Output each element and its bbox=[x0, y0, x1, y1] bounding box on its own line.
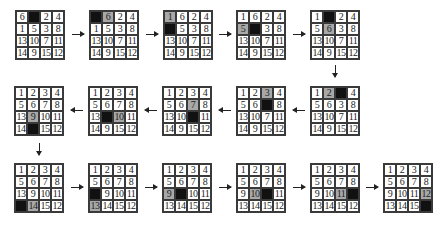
puzzle-state-15: 123456789101113141512 bbox=[310, 163, 360, 213]
moved-tile: 9 bbox=[163, 188, 175, 200]
moved-tile: 11 bbox=[335, 188, 347, 200]
puzzle-tile: 7 bbox=[261, 111, 273, 123]
puzzle-state-11: 123456781391011141512 bbox=[14, 163, 64, 213]
puzzle-tile: 2 bbox=[249, 87, 261, 99]
puzzle-tile: 8 bbox=[273, 23, 285, 35]
puzzle-tile: 3 bbox=[335, 164, 347, 176]
puzzle-tile: 1 bbox=[16, 23, 28, 35]
puzzle-tile: 4 bbox=[273, 164, 285, 176]
puzzle-tile: 14 bbox=[16, 47, 28, 59]
puzzle-tile: 3 bbox=[113, 164, 125, 176]
puzzle-tile: 4 bbox=[420, 164, 432, 176]
puzzle-tile: 11 bbox=[52, 35, 64, 47]
puzzle-tile: 9 bbox=[101, 188, 113, 200]
puzzle-tile: 2 bbox=[101, 164, 113, 176]
puzzle-tile: 14 bbox=[396, 200, 408, 212]
puzzle-tile: 14 bbox=[311, 123, 323, 135]
puzzle-tile: 5 bbox=[89, 176, 101, 188]
puzzle-tile: 8 bbox=[125, 176, 137, 188]
blank-tile bbox=[261, 99, 273, 111]
puzzle-tile: 5 bbox=[311, 99, 323, 111]
blank-tile bbox=[249, 23, 261, 35]
puzzle-tile: 6 bbox=[175, 176, 187, 188]
puzzle-tile: 2 bbox=[188, 11, 200, 23]
puzzle-tile: 7 bbox=[335, 111, 347, 123]
puzzle-tile: 9 bbox=[249, 123, 261, 135]
puzzle-tile: 9 bbox=[28, 47, 40, 59]
puzzle-tile: 6 bbox=[249, 11, 261, 23]
puzzle-state-3: 162453813107111491512 bbox=[163, 10, 213, 60]
moved-tile: 1 bbox=[164, 11, 176, 23]
puzzle-tile: 11 bbox=[347, 35, 359, 47]
puzzle-tile: 1 bbox=[237, 87, 249, 99]
moved-tile: 12 bbox=[420, 188, 432, 200]
puzzle-tile: 15 bbox=[39, 200, 51, 212]
puzzle-tile: 13 bbox=[311, 111, 323, 123]
moved-tile: 14 bbox=[27, 200, 39, 212]
puzzle-tile: 5 bbox=[311, 176, 323, 188]
puzzle-state-14: 123456789101113141512 bbox=[236, 163, 286, 213]
puzzle-tile: 7 bbox=[335, 176, 347, 188]
puzzle-tile: 5 bbox=[237, 176, 249, 188]
puzzle-tile: 12 bbox=[125, 200, 137, 212]
puzzle-tile: 12 bbox=[200, 47, 212, 59]
puzzle-state-6: 124563813107111491512 bbox=[310, 86, 360, 136]
puzzle-tile: 1 bbox=[237, 11, 249, 23]
puzzle-tile: 15 bbox=[113, 200, 125, 212]
arrow-left-icon bbox=[71, 110, 83, 111]
puzzle-state-12: 123456789101113141512 bbox=[88, 163, 138, 213]
puzzle-tile: 2 bbox=[40, 11, 52, 23]
puzzle-tile: 15 bbox=[335, 47, 347, 59]
puzzle-tile: 1 bbox=[311, 87, 323, 99]
puzzle-tile: 2 bbox=[249, 164, 261, 176]
puzzle-tile: 13 bbox=[15, 111, 27, 123]
puzzle-tile: 10 bbox=[113, 188, 125, 200]
puzzle-state-13: 123456789101113141512 bbox=[162, 163, 212, 213]
puzzle-tile: 1 bbox=[163, 87, 175, 99]
puzzle-tile: 2 bbox=[27, 164, 39, 176]
puzzle-tile: 15 bbox=[113, 123, 125, 135]
puzzle-tile: 4 bbox=[125, 87, 137, 99]
puzzle-tile: 12 bbox=[273, 47, 285, 59]
puzzle-tile: 2 bbox=[114, 11, 126, 23]
puzzle-tile: 8 bbox=[51, 99, 63, 111]
puzzle-tile: 11 bbox=[200, 35, 212, 47]
puzzle-tile: 9 bbox=[323, 47, 335, 59]
puzzle-tile: 5 bbox=[28, 23, 40, 35]
puzzle-tile: 2 bbox=[175, 164, 187, 176]
puzzle-state-4: 162453813107111491512 bbox=[236, 10, 286, 60]
puzzle-tile: 12 bbox=[347, 123, 359, 135]
puzzle-tile: 1 bbox=[311, 11, 323, 23]
puzzle-tile: 9 bbox=[249, 47, 261, 59]
puzzle-tile: 6 bbox=[249, 99, 261, 111]
puzzle-tile: 2 bbox=[396, 164, 408, 176]
puzzle-tile: 4 bbox=[347, 164, 359, 176]
puzzle-tile: 15 bbox=[40, 47, 52, 59]
puzzle-tile: 8 bbox=[125, 99, 137, 111]
arrow-down-icon bbox=[39, 143, 40, 155]
puzzle-tile: 7 bbox=[39, 99, 51, 111]
puzzle-tile: 9 bbox=[101, 123, 113, 135]
blank-tile bbox=[323, 11, 335, 23]
puzzle-tile: 2 bbox=[175, 87, 187, 99]
puzzle-tile: 8 bbox=[347, 23, 359, 35]
moved-tile: 6 bbox=[102, 11, 114, 23]
puzzle-tile: 4 bbox=[125, 164, 137, 176]
puzzle-tile: 4 bbox=[273, 11, 285, 23]
puzzle-tile: 12 bbox=[273, 123, 285, 135]
arrow-down-icon bbox=[335, 65, 336, 77]
puzzle-tile: 3 bbox=[261, 164, 273, 176]
puzzle-tile: 4 bbox=[199, 87, 211, 99]
blank-tile bbox=[28, 11, 40, 23]
puzzle-tile: 6 bbox=[16, 11, 28, 23]
moved-tile: 7 bbox=[187, 99, 199, 111]
puzzle-tile: 13 bbox=[311, 35, 323, 47]
puzzle-tile: 13 bbox=[237, 200, 249, 212]
puzzle-state-16: 123456789101112131415 bbox=[383, 163, 433, 213]
puzzle-tile: 6 bbox=[175, 99, 187, 111]
puzzle-tile: 10 bbox=[176, 35, 188, 47]
puzzle-tile: 15 bbox=[188, 47, 200, 59]
puzzle-tile: 7 bbox=[261, 176, 273, 188]
puzzle-tile: 6 bbox=[249, 176, 261, 188]
puzzle-tile: 8 bbox=[347, 99, 359, 111]
